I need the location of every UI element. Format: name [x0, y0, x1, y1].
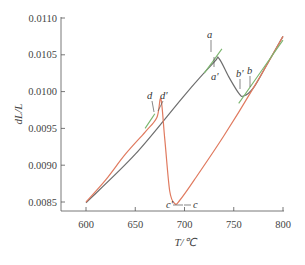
cooling-curve-line [86, 36, 283, 204]
data-series [86, 36, 283, 204]
y-tick-label: 0.0110 [29, 13, 58, 24]
y-tick-label: 0.0085 [28, 197, 57, 208]
x-tick-label: 800 [275, 219, 291, 230]
dilatometric-chart: 0.00850.00900.00950.01000.01050.0110 600… [0, 0, 305, 265]
annotation-b-prime: b' [236, 68, 244, 79]
x-tick-label: 650 [127, 219, 143, 230]
x-ticks: 600650700750800 [78, 207, 291, 230]
y-axis-title: dL/L [12, 104, 24, 125]
annotation-c-prime: c' [166, 199, 174, 210]
annotation-leaders [152, 40, 250, 205]
x-tick-label: 750 [226, 219, 242, 230]
annotation-a: a [207, 29, 212, 40]
tangent-a--line [204, 49, 222, 73]
axes [61, 17, 284, 211]
y-tick-label: 0.0095 [28, 123, 57, 134]
y-tick-label: 0.0090 [28, 160, 57, 171]
x-tick-label: 700 [177, 219, 193, 230]
annotation-c: c [193, 199, 198, 210]
annotation-d: d [147, 90, 153, 101]
x-axis-title: T/℃ [174, 236, 197, 248]
annotation-d-prime: d' [160, 90, 168, 101]
x-tick-label: 600 [78, 219, 94, 230]
heating-curve-line [86, 36, 283, 202]
y-tick-label: 0.0100 [28, 86, 57, 97]
annotation-a-prime: a' [211, 71, 219, 82]
tangent-high-t--line [239, 40, 283, 103]
annotation-b: b [247, 65, 252, 76]
y-ticks: 0.00850.00900.00950.01000.01050.0110 [28, 13, 65, 208]
y-tick-label: 0.0105 [28, 49, 57, 60]
